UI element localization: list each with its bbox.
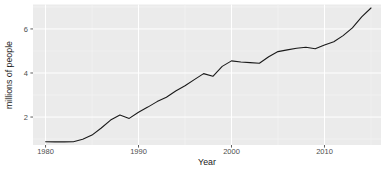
x-axis-title: Year [33, 157, 381, 167]
x-tick-label: 2010 [316, 147, 333, 156]
y-axis-title: millions of people [4, 41, 14, 109]
x-tick-label: 2000 [223, 147, 240, 156]
y-tick-label: 6 [24, 25, 28, 34]
y-tick-label: 2 [24, 113, 28, 122]
x-tick-label: 1990 [130, 147, 147, 156]
chart-canvas: 1980199020002010246 [0, 0, 386, 170]
x-tick-label: 1980 [37, 147, 54, 156]
line-chart-figure: 1980199020002010246 Year millions of peo… [0, 0, 386, 170]
y-tick-label: 4 [24, 69, 28, 78]
